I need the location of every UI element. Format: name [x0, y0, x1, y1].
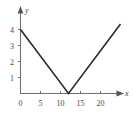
- data-series-absolute-value: [21, 24, 121, 94]
- y-axis-arrow-icon: [18, 6, 24, 14]
- chart-figure: y x 0 5 10 15 20: [0, 0, 133, 115]
- y-tick-labels: 1 2 3 4: [10, 26, 14, 83]
- y-tick-label-2: 2: [10, 58, 14, 67]
- x-tick-label-0: 0: [19, 99, 23, 108]
- x-tick-label-20: 20: [97, 99, 105, 108]
- y-tick-label-1: 1: [10, 74, 14, 83]
- x-tick-label-15: 15: [77, 99, 85, 108]
- x-tick-labels: 0 5 10 15 20: [19, 99, 105, 108]
- y-tick-label-3: 3: [10, 42, 14, 51]
- x-axis-arrow-icon: [117, 91, 125, 97]
- x-axis-label: x: [124, 89, 129, 98]
- absolute-value-line-chart: y x 0 5 10 15 20: [0, 0, 133, 115]
- x-tick-label-10: 10: [57, 99, 65, 108]
- y-axis-group: y: [18, 6, 29, 94]
- x-axis-group: x: [21, 89, 130, 98]
- y-tick-label-4: 4: [10, 26, 14, 35]
- x-tick-label-5: 5: [39, 99, 43, 108]
- y-axis-label: y: [24, 6, 29, 15]
